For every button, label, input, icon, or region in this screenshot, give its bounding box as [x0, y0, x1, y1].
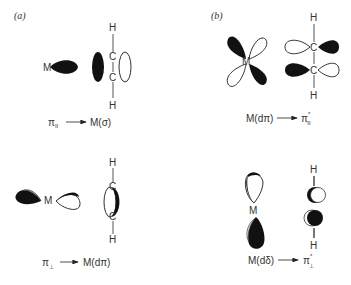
- hydrogen-bottom-label: H: [109, 100, 116, 111]
- orbital-diagram: (a) M H C C H πII M(σ) M H C: [0, 0, 351, 285]
- d-lobe-lower-left: [227, 64, 246, 86]
- carbon-bottom-label: C: [109, 72, 116, 83]
- panel-b-label: (b): [211, 10, 223, 22]
- panel-a-top: M H C C H πII M(σ): [43, 22, 131, 129]
- hydrogen-bottom-label: H: [310, 240, 317, 251]
- panel-b-bottom: M H H M(dδ) π*⊥: [245, 164, 325, 269]
- hydrogen-bottom-label: H: [109, 234, 116, 245]
- caption-acceptor: π*⊥: [303, 253, 314, 269]
- caption-donor: M(dπ): [246, 113, 273, 124]
- d-delta-lobe-upper: [245, 173, 263, 203]
- metal-atom-label: M: [249, 205, 257, 216]
- caption-acceptor: M(σ): [90, 117, 111, 128]
- caption-donor: π⊥: [42, 257, 54, 270]
- p-lobe-lower-front: [307, 210, 323, 226]
- d-lobe-lower-right: [249, 64, 267, 85]
- hydrogen-top-label: H: [109, 157, 116, 168]
- panel-a-bottom: M H C C H π⊥ M(dπ): [15, 157, 119, 270]
- metal-atom-label: M: [44, 195, 52, 206]
- hydrogen-bottom-label: H: [310, 90, 317, 101]
- metal-d-lobe-right: [56, 194, 80, 209]
- metal-d-lobe-left: [15, 190, 41, 204]
- caption-acceptor: M(dπ): [83, 257, 110, 268]
- carbon-top-label: C: [109, 51, 116, 62]
- panel-a-label: (a): [14, 10, 26, 22]
- p-lobe-lower-left: [285, 63, 310, 77]
- metal-sigma-lobe: [50, 60, 78, 74]
- carbon-bottom-label: C: [109, 211, 116, 222]
- carbon-top-label: C: [109, 181, 116, 192]
- pi-lobe-filled: [92, 52, 104, 82]
- p-lobe-lower-right: [318, 63, 339, 77]
- p-lobe-upper-left: [285, 40, 310, 54]
- hydrogen-top-label: H: [310, 164, 317, 175]
- metal-atom-label: M: [242, 56, 250, 67]
- caption-donor: M(dδ): [248, 255, 274, 266]
- p-lobe-upper-right: [318, 40, 339, 54]
- carbon-top-label: C: [310, 42, 317, 53]
- p-lobe-upper-front: [311, 188, 326, 203]
- caption-acceptor: π*II: [301, 111, 311, 126]
- panel-b-top: M H H C C M(dπ) π*II: [227, 12, 339, 126]
- pi-lobe-empty: [119, 52, 131, 82]
- d-lobe-upper-right: [249, 38, 267, 59]
- hydrogen-top-label: H: [109, 22, 116, 33]
- carbon-bottom-label: C: [310, 65, 317, 76]
- d-delta-lobe-lower: [248, 217, 265, 249]
- metal-atom-label: M: [43, 62, 51, 73]
- caption-donor: πII: [48, 117, 59, 129]
- hydrogen-top-label: H: [310, 12, 317, 23]
